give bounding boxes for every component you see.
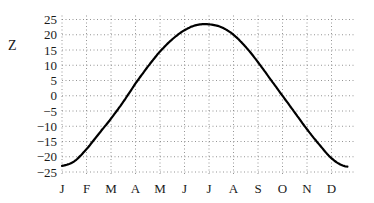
x-tick-label: J [182,181,187,196]
y-tick-label: −25 [37,165,57,180]
x-tick-label: F [83,181,90,196]
y-axis-label: Z [8,38,17,53]
x-tick-label: O [278,181,287,196]
x-tick-label: A [131,181,141,196]
y-tick-label: 0 [51,88,58,103]
y-tick-label: −15 [37,134,57,149]
x-tick-label: A [229,181,239,196]
x-tick-label: M [154,181,166,196]
y-tick-label: −5 [43,104,57,119]
y-tick-label: −20 [37,149,57,164]
x-tick-label: M [105,181,117,196]
y-tick-label: 20 [44,27,57,42]
x-tick-label: N [302,181,312,196]
x-tick-label: J [59,181,64,196]
y-tick-label: 15 [44,43,57,58]
x-tick-label: J [206,181,211,196]
y-tick-label: 5 [51,73,58,88]
x-tick-label: D [327,181,336,196]
grid-lines [62,16,355,176]
y-axis-ticks: 2520151050−5−10−15−20−25 [37,12,57,180]
x-tick-label: S [254,181,261,196]
y-tick-label: 25 [44,12,57,27]
line-chart: 2520151050−5−10−15−20−25 JFMAMJJASOND Z [0,0,374,203]
x-axis-ticks: JFMAMJJASOND [59,181,336,196]
y-tick-label: 10 [44,58,57,73]
y-tick-label: −10 [37,119,57,134]
